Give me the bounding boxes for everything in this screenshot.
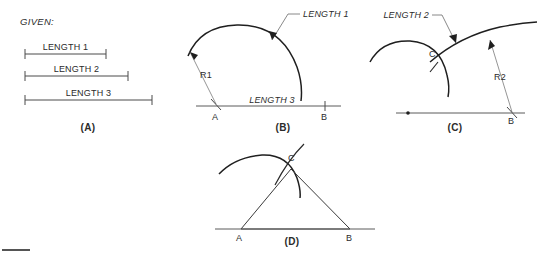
panel-label-d: (D) — [285, 236, 300, 247]
geometric-construction-figure: GIVEN: LENGTH 1 LENGTH 2 — [0, 0, 541, 256]
panel-c-radius-arrowhead — [488, 40, 495, 50]
length-bar-2-label: LENGTH 2 — [54, 64, 100, 74]
panel-label-b: (B) — [276, 122, 291, 133]
given-label: GIVEN: — [20, 16, 54, 27]
panel-c-point-a-dot — [406, 111, 410, 115]
panel-d-construction: A B C (D) — [215, 144, 375, 247]
panel-c-radius-label: R2 — [494, 72, 506, 82]
bottom-divider-rule — [2, 249, 30, 251]
figure-canvas: GIVEN: LENGTH 1 LENGTH 2 — [0, 0, 541, 256]
panel-c-point-c-label: C — [429, 49, 436, 59]
length-bar-2: LENGTH 2 — [25, 64, 128, 81]
panel-b-callout-label: LENGTH 1 — [303, 9, 349, 19]
panel-b-point-a-label: A — [212, 112, 218, 122]
panel-label-a: (A) — [81, 122, 96, 133]
panel-b-radius-arrowhead — [190, 52, 198, 60]
length-bar-3-label: LENGTH 3 — [66, 88, 112, 98]
panel-d-side-cb — [291, 169, 350, 229]
panel-c-point-b-label: B — [508, 116, 514, 126]
panel-d-side-ac — [241, 169, 291, 229]
panel-b-radius-label: R1 — [200, 70, 212, 80]
panel-b-point-b-label: B — [321, 112, 327, 122]
panel-b-tick-a — [211, 99, 221, 110]
panel-label-c: (C) — [448, 122, 463, 133]
length-bar-1: LENGTH 1 — [25, 42, 106, 59]
panel-b-baseline-label: LENGTH 3 — [249, 95, 295, 105]
panel-d-point-a-label: A — [236, 233, 242, 243]
length-bar-3: LENGTH 3 — [25, 88, 152, 105]
panel-d-point-b-label: B — [346, 233, 352, 243]
panel-c-callout-arrowhead — [449, 34, 457, 43]
panel-b-arc-length1 — [188, 25, 302, 101]
panel-c-arc-from-a — [370, 41, 449, 97]
given-length-bars: LENGTH 1 LENGTH 2 LENGTH 3 (A) — [25, 42, 152, 133]
panel-c-construction: R2 LENGTH 2 C B (C) — [370, 10, 537, 133]
panel-d-point-c-label: C — [288, 153, 295, 163]
panel-b-construction: R1 LENGTH 1 LENGTH 3 A B (B) — [188, 9, 349, 133]
length-bar-1-label: LENGTH 1 — [43, 42, 89, 52]
panel-c-intersection-tick — [430, 62, 438, 72]
panel-c-arc-from-b — [430, 22, 537, 62]
panel-c-callout-label: LENGTH 2 — [383, 10, 429, 20]
